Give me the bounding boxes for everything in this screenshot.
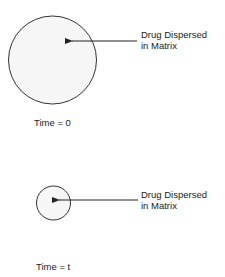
annotation-line-1: Drug Dispersed [141,29,207,40]
annotation-time-t: Drug Dispersed in Matrix [141,189,207,211]
time-label-t: Time = t [36,261,70,272]
annotation-time-0: Drug Dispersed in Matrix [141,29,207,51]
matrix-circle-time-t [37,186,71,220]
annotation-line-2: in Matrix [141,40,207,51]
annotation-line-2: in Matrix [141,200,207,211]
time-label-0: Time = 0 [34,117,71,128]
annotation-line-1: Drug Dispersed [141,189,207,200]
matrix-circle-time-0 [9,16,97,104]
